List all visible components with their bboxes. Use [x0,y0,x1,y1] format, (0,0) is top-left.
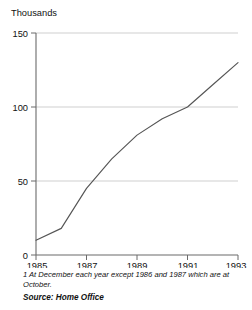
gridlines [36,33,238,181]
x-tick-label-1985: 1985 [27,261,48,268]
x-tick-marks [36,255,238,260]
footnote: 1 At December each year except 1986 and … [23,270,249,291]
y-tick-label-150: 150 [12,29,28,39]
line-chart-plot: 150 100 50 0 1985 1987 1989 1991 1993 [0,0,252,268]
chart-figure: Thousands 150 100 50 0 [0,0,252,310]
y-tick-label-50: 50 [18,177,28,187]
y-tick-label-0: 0 [23,251,28,261]
x-tick-label-1993: 1993 [226,261,247,268]
y-tick-label-100: 100 [12,103,28,113]
y-tick-marks [31,33,36,255]
source-label: Source: Home Office [23,293,104,302]
y-tick-labels: 150 100 50 0 [12,29,28,261]
x-tick-labels: 1985 1987 1989 1991 1993 [27,261,247,268]
data-series-line [36,63,238,241]
x-tick-label-1987: 1987 [77,261,98,268]
x-tick-label-1991: 1991 [178,261,199,268]
footnote-line-1: 1 At December each year except 1986 and … [23,270,221,279]
x-tick-label-1989: 1989 [127,261,148,268]
